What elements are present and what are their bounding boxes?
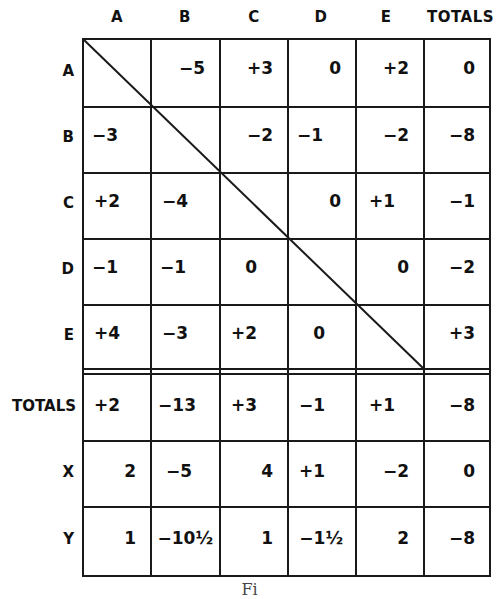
row-header-e: E <box>0 326 74 344</box>
cell-x-a: 2 <box>82 461 150 481</box>
row-header-totals: TOTALS <box>0 397 76 415</box>
cell-x-b: −5 <box>150 461 206 481</box>
cell-totals-e: +1 <box>355 395 409 415</box>
cell-totals-c: +3 <box>219 395 271 415</box>
cell-x-c: 4 <box>219 461 287 481</box>
cell-y-e: 2 <box>355 528 423 548</box>
cell-y-b: −10½ <box>150 528 219 548</box>
col-header-d: D <box>304 8 338 26</box>
row-header-a: A <box>0 62 74 80</box>
diagonal-line <box>82 38 427 373</box>
cell-totals-d: −1 <box>287 395 339 415</box>
cell-b-totals: −8 <box>423 125 489 145</box>
cell-y-d: −1½ <box>287 528 349 548</box>
cell-totals-a: +2 <box>82 395 134 415</box>
col-header-totals: TOTALS <box>422 8 499 26</box>
figure-caption: Fi <box>0 580 499 599</box>
cell-y-c: 1 <box>219 528 287 548</box>
cell-e-totals: +3 <box>423 323 489 343</box>
row-header-d: D <box>0 260 74 278</box>
row-header-b: B <box>0 128 74 146</box>
cell-d-totals: −2 <box>423 257 489 277</box>
cell-x-e: −2 <box>355 461 423 481</box>
cell-x-d: +1 <box>287 461 339 481</box>
row-header-x: X <box>0 463 74 481</box>
col-header-c: C <box>237 8 271 26</box>
grid-line <box>489 38 491 577</box>
cell-c-totals: −1 <box>423 191 489 211</box>
row-header-y: Y <box>0 530 74 548</box>
cell-x-totals: 0 <box>423 461 489 481</box>
col-header-b: B <box>168 8 202 26</box>
cell-totals-b: −13 <box>150 395 210 415</box>
cell-y-totals: −8 <box>423 528 489 548</box>
cell-totals-totals: −8 <box>423 395 489 415</box>
row-header-c: C <box>0 194 74 212</box>
col-header-e: E <box>369 8 403 26</box>
col-header-a: A <box>100 8 134 26</box>
cell-a-totals: 0 <box>423 58 489 78</box>
cell-y-a: 1 <box>82 528 150 548</box>
